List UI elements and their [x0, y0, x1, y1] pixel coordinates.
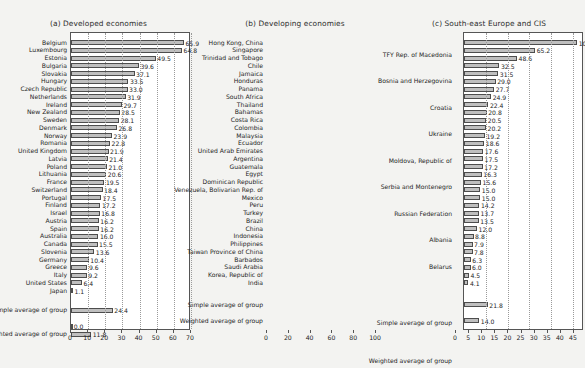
category-label: United Kingdom — [18, 147, 67, 154]
bar-value-label: 28.1 — [119, 117, 134, 124]
category-label: Brazil — [246, 216, 263, 223]
axis-tick-label: 100 — [369, 334, 381, 341]
category-label: Thailand — [237, 100, 263, 107]
axis-tick-mark — [190, 330, 191, 333]
bar-value-label: 19.5 — [104, 179, 119, 186]
category-label: Mexico — [242, 193, 263, 200]
category-label: Albania — [429, 236, 452, 243]
axis-tick-label: 80 — [349, 334, 357, 341]
axis-tick-label: 20 — [100, 334, 108, 341]
bar — [71, 211, 100, 216]
plot-area-a: 65.964.849.539.637.133.533.031.929.728.5… — [70, 32, 190, 330]
bar-value-label: 49.5 — [156, 55, 171, 62]
bar-value-label: 16.8 — [100, 210, 115, 217]
category-label: Ireland — [46, 100, 67, 107]
axis-tick-mark — [288, 330, 289, 333]
category-label: Japan — [50, 286, 67, 293]
category-label: Barbados — [234, 255, 263, 262]
bar — [71, 110, 120, 115]
category-label: Canada — [44, 240, 67, 247]
category-label: Singapore — [232, 46, 263, 53]
axis-tick-mark — [507, 330, 508, 333]
category-label: Hong Kong, China — [209, 38, 263, 45]
axis-tick-mark — [468, 330, 469, 333]
category-label: Romania — [40, 139, 67, 146]
category-label: Korea, Republic of — [208, 271, 263, 278]
bar — [71, 308, 113, 313]
gridline — [88, 33, 89, 329]
category-label: Netherlands — [30, 92, 67, 99]
axis-tick-mark — [139, 330, 140, 333]
bar-value-label: 37.1 — [135, 70, 150, 77]
category-label: Italy — [54, 271, 67, 278]
bar — [71, 125, 117, 130]
bar-value-label: 23.9 — [112, 132, 127, 139]
axis-tick-mark — [375, 330, 376, 333]
category-label: China — [246, 224, 263, 231]
category-label: Colombia — [234, 123, 263, 130]
category-label: Argentina — [233, 154, 263, 161]
category-label: Ecuador — [238, 139, 263, 146]
category-label: Israel — [50, 209, 67, 216]
axis-tick-label: 20 — [284, 334, 292, 341]
category-label: Sweden — [43, 116, 67, 123]
axis-tick-label: 5 — [466, 334, 470, 341]
category-label: Slovenia — [41, 247, 67, 254]
category-label: Russian Federation — [394, 209, 452, 216]
axis-tick-mark — [156, 330, 157, 333]
axis-tick-mark — [521, 330, 522, 333]
category-label: Estonia — [45, 54, 67, 61]
bar — [71, 218, 99, 223]
category-label: Switzerland — [31, 185, 67, 192]
category-label: Philippines — [230, 240, 263, 247]
bar-value-label: 64.8 — [182, 47, 197, 54]
axis-tick-mark — [104, 330, 105, 333]
category-label: Finland — [45, 201, 67, 208]
bar — [71, 257, 89, 262]
axis-tick-label: 25 — [517, 334, 525, 341]
bar — [71, 187, 103, 192]
axis-tick-mark — [494, 330, 495, 333]
bar-value-label: 29.7 — [122, 101, 137, 108]
bar-value-label: 33.5 — [128, 78, 143, 85]
category-label: Spain — [50, 224, 67, 231]
bar — [71, 195, 101, 200]
bar-value-label: 24.4 — [113, 307, 128, 314]
bar-value-label: 39.6 — [139, 62, 154, 69]
category-label: Simple average of group — [188, 300, 263, 307]
category-label: Taiwan Province of China — [187, 247, 263, 254]
bar-value-label: 1.1 — [73, 287, 84, 294]
gridline — [105, 33, 106, 329]
category-label: Dominican Republic — [202, 178, 263, 185]
bar — [71, 156, 108, 161]
axis-tick-label: 40 — [306, 334, 314, 341]
bar — [71, 71, 135, 76]
bar — [71, 79, 128, 84]
bar-value-label: 21.9 — [109, 148, 124, 155]
bar — [71, 94, 126, 99]
axis-tick-mark — [573, 330, 574, 333]
category-label: Bosnia and Herzegovina — [378, 77, 452, 84]
axis-tick-label: 10 — [83, 334, 91, 341]
category-label: Belarus — [429, 262, 452, 269]
axis-tick-label: 35 — [543, 334, 551, 341]
axis-tick-mark — [455, 330, 456, 333]
axis-tick-mark — [547, 330, 548, 333]
axis-tick-label: 0 — [264, 334, 268, 341]
bar — [71, 118, 119, 123]
gridline — [174, 33, 175, 329]
axis-tick-mark — [560, 330, 561, 333]
bar-value-label: 21.4 — [108, 155, 123, 162]
axis-tick-mark — [481, 330, 482, 333]
axis-tick-label: 0 — [68, 334, 72, 341]
gridline — [191, 33, 192, 329]
axis-tick-mark — [331, 330, 332, 333]
bar-value-label: 17.5 — [101, 194, 116, 201]
axis-tick-label: 15 — [490, 334, 498, 341]
category-label: Saudi Arabia — [224, 263, 263, 270]
bar — [71, 141, 110, 146]
axis-tick-mark — [87, 330, 88, 333]
category-label: Serbia and Montenegro — [381, 183, 452, 190]
category-label: Luxembourg — [29, 46, 67, 53]
bar-value-label: 13.6 — [94, 248, 109, 255]
